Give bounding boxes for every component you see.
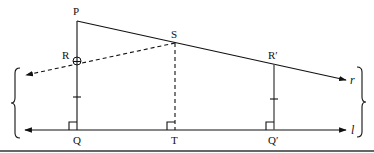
dashed-line-SR [26, 43, 175, 75]
label-r: r [350, 73, 355, 87]
left-brace [11, 68, 20, 138]
label-Q: Q [73, 134, 81, 146]
line-r [77, 21, 346, 80]
label-T: T [171, 134, 178, 146]
geometry-diagram: P R S R′ r l Q T Q′ [0, 0, 374, 153]
right-angle-Qprime [266, 122, 274, 130]
label-l: l [351, 123, 355, 137]
label-S: S [171, 28, 177, 40]
label-P: P [73, 5, 79, 17]
label-Rprime: R′ [268, 49, 278, 61]
label-Qprime: Q′ [268, 134, 278, 146]
label-R: R [62, 49, 70, 61]
right-brace [357, 67, 366, 137]
right-angle-T [167, 122, 175, 130]
right-angle-Q [69, 122, 77, 130]
